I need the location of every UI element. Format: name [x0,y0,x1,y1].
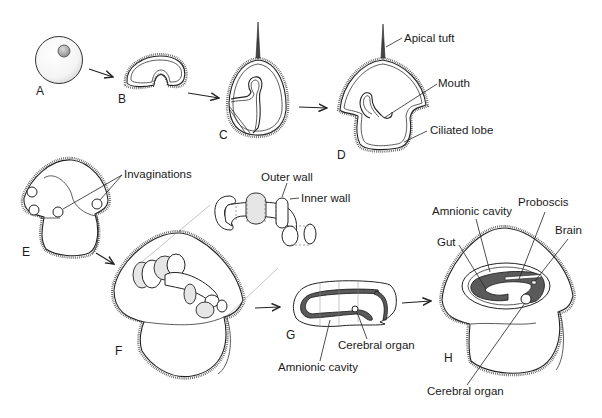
arrow-b-to-c [188,93,219,98]
label-inner-wall: Inner wall [301,193,350,205]
arrow-a-to-b [89,69,113,77]
stage-b-gastrula [125,54,187,88]
diagram-canvas: A B C D E F G H Apical tuft Mouth Ciliat… [0,0,602,418]
label-g-amnionic-cavity: Amnionic cavity [278,362,358,374]
stage-h-juvenile-in-pilidium [440,212,575,385]
arrow-c-to-d [299,107,327,108]
stage-f-juvenile-forming [112,205,278,379]
stage-c-early-pilidium [227,22,288,137]
label-h-proboscis: Proboscis [518,197,569,209]
stage-a-egg [36,37,83,84]
label-ciliated-lobe: Ciliated lobe [430,125,493,137]
label-h-amnionic-cavity: Amnionic cavity [432,206,512,218]
stage-e-invaginations [22,158,122,258]
label-outer-wall: Outer wall [261,172,313,184]
stage-label-f: F [115,345,122,357]
label-h-brain: Brain [555,225,582,237]
arrow-f-to-g [255,307,280,308]
label-invaginations: Invaginations [124,169,192,181]
stage-label-e: E [22,246,30,258]
stage-label-d: D [337,149,346,161]
label-h-cerebral-organ: Cerebral organ [427,386,504,398]
stage-label-c: C [219,129,228,141]
arrow-e-to-f [96,253,114,264]
stage-label-g: G [286,329,295,341]
label-g-cerebral-organ: Cerebral organ [338,340,415,352]
label-apical-tuft: Apical tuft [404,33,455,45]
stage-label-b: B [118,93,126,105]
label-mouth: Mouth [438,78,470,90]
label-h-gut: Gut [437,237,456,249]
stage-label-h: H [444,352,453,364]
arrow-g-to-h [402,301,431,303]
stage-label-a: A [36,85,44,97]
